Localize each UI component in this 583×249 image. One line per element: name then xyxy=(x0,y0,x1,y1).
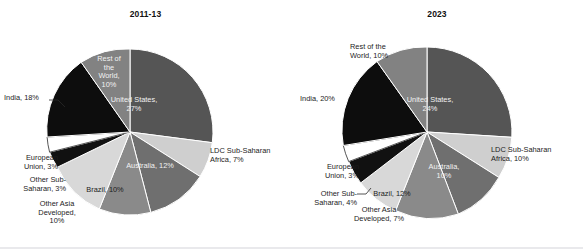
panel-title-2011-13: 2011-13 xyxy=(0,9,291,19)
panel-2011-13: 2011-13 xyxy=(0,0,291,249)
slice-label-india: India, 20% xyxy=(300,95,356,104)
slice-label-ldc-sub-saharan-africa: LDC Sub-Saharan Africa, 7% xyxy=(210,147,290,164)
panel-2023: 2023 xyxy=(291,0,583,249)
slice-label-rest-of-world: Rest of the World, 10% xyxy=(350,43,416,60)
slice-label-ldc-sub-saharan-africa: LDC Sub-Saharan Africa, 10% xyxy=(491,146,581,163)
slice-label-european-union: European Union, 3% xyxy=(0,154,58,171)
slice-label-united-states: United States, 27% xyxy=(92,96,176,113)
slice-label-united-states: United States, 24% xyxy=(387,96,473,113)
slice-label-other-asia-developed: Other Asia Developed, 7% xyxy=(339,206,419,223)
slice-label-other-sub-saharan: Other Sub- Saharan, 4% xyxy=(291,190,357,207)
slice-label-european-union: European Union, 3% xyxy=(291,163,359,180)
slice-label-other-asia-developed: Other Asia Developed, 10% xyxy=(26,200,88,226)
slice-label-brazil: Brazil, 10% xyxy=(77,186,133,195)
leader-line-india xyxy=(48,96,66,110)
slice-label-rest-of-world: Rest of the World, 10% xyxy=(86,55,132,89)
slice-label-australia: Australia, 12% xyxy=(115,162,185,171)
slice-label-other-sub-saharan: Other Sub- Saharan, 3% xyxy=(0,176,66,193)
slice-label-australia: Australia, 10% xyxy=(415,163,473,180)
pie-slice-united-states xyxy=(427,47,512,137)
figure-two-pie-charts: Share of World Trade 2011-13 xyxy=(0,0,583,249)
leader-line-other-sub-saharan xyxy=(357,188,373,204)
panel-title-2023: 2023 xyxy=(291,9,583,19)
